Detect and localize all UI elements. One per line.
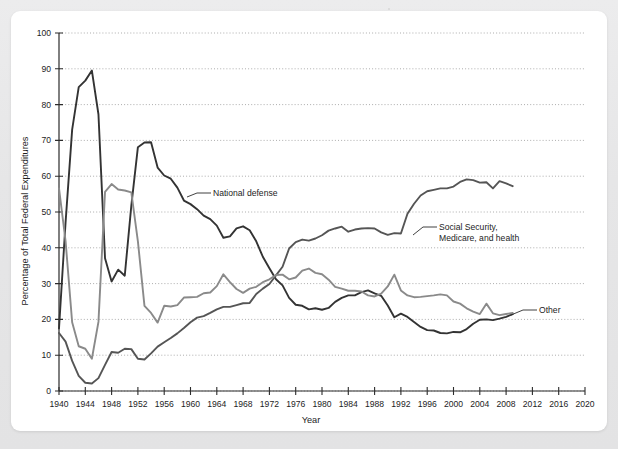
x-tick-label: 1964 xyxy=(207,399,226,409)
y-tick-label: 70 xyxy=(41,135,51,145)
x-tick-label: 1960 xyxy=(181,399,200,409)
y-tick-label: 40 xyxy=(41,243,51,253)
annotation-label-national-defense: National defense xyxy=(213,188,278,198)
y-tick-label: 0 xyxy=(46,386,51,396)
x-tick-label: 1992 xyxy=(391,399,410,409)
x-tick-label: 1944 xyxy=(76,399,95,409)
figure-panel: 0102030405060708090100 19401944194819521… xyxy=(11,11,607,431)
x-tick-label: 1972 xyxy=(260,399,279,409)
y-axis: 0102030405060708090100 xyxy=(37,28,63,396)
x-tick-label: 1940 xyxy=(49,399,68,409)
annotation-label-other: Other xyxy=(539,305,561,315)
x-tick-label: 1968 xyxy=(234,399,253,409)
x-tick-label: 1988 xyxy=(365,399,384,409)
y-tick-label: 10 xyxy=(41,350,51,360)
annotation-label-social-security: Social Security, xyxy=(439,222,498,232)
annotation-label-social-security: Medicare, and health xyxy=(439,233,519,243)
y-tick-label: 100 xyxy=(37,28,52,38)
x-tick-label: 1952 xyxy=(128,399,147,409)
series-line-national-defense xyxy=(59,71,513,334)
y-tick-label: 80 xyxy=(41,100,51,110)
line-chart: 0102030405060708090100 19401944194819521… xyxy=(11,11,607,431)
y-tick-label: 90 xyxy=(41,64,51,74)
x-tick-label: 1984 xyxy=(339,399,358,409)
y-tick-label: 50 xyxy=(41,207,51,217)
annotation-other: Other xyxy=(511,305,561,315)
leader-line-national-defense xyxy=(187,193,211,197)
y-tick-label: 60 xyxy=(41,171,51,181)
x-tick-label: 1976 xyxy=(286,399,305,409)
x-tick-label: 2016 xyxy=(549,399,568,409)
leader-line-social-security xyxy=(413,227,437,235)
x-tick-label: 1996 xyxy=(418,399,437,409)
x-tick-label: 1956 xyxy=(155,399,174,409)
x-tick-label: 1980 xyxy=(312,399,331,409)
x-axis-title: Year xyxy=(302,415,321,425)
y-tick-label: 20 xyxy=(41,314,51,324)
leader-line-other xyxy=(511,310,537,315)
x-tick-label: 2012 xyxy=(523,399,542,409)
x-tick-label: 2004 xyxy=(470,399,489,409)
x-axis: 1940194419481952195619601964196819721976… xyxy=(49,387,594,409)
y-axis-title: Percentage of Total Federal Expenditures xyxy=(20,136,30,305)
x-tick-label: 2020 xyxy=(575,399,594,409)
x-tick-label: 1948 xyxy=(102,399,121,409)
annotation-national-defense: National defense xyxy=(187,188,278,198)
annotation-social-security: Social Security,Medicare, and health xyxy=(413,222,519,243)
x-tick-label: 2000 xyxy=(444,399,463,409)
series-line-social-security-medicare-and-health xyxy=(59,179,513,383)
gridlines xyxy=(59,33,585,391)
x-tick-label: 2008 xyxy=(497,399,516,409)
y-tick-label: 30 xyxy=(41,279,51,289)
